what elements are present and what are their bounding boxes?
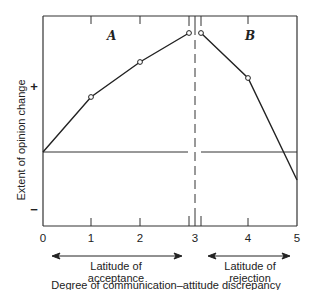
x-tick-5: 5 [294,232,300,244]
minus-marker: − [30,202,38,217]
region-a-label: A [106,29,116,43]
x-tick-0: 0 [40,232,46,244]
marker-a-2 [138,60,143,65]
opinion-change-chart: A B + − Extent of opinion change 0 1 2 3… [0,0,315,290]
acceptance-label-line1: Latitude of [90,260,142,272]
x-tick-1: 1 [88,232,94,244]
marker-b-2 [246,76,251,81]
x-tick-4: 4 [245,232,252,244]
marker-a-3 [187,31,192,36]
rejection-label-line1: Latitude of [224,260,276,272]
y-axis-label: Extent of opinion change [15,79,27,200]
x-tick-2: 2 [137,232,143,244]
series-b-line [201,33,297,180]
marker-b-1 [199,31,204,36]
x-axis-label: Degree of communication–attitude discrep… [51,279,281,290]
region-b-label: B [244,29,255,43]
acceptance-arrow [52,253,182,259]
rejection-arrow [208,253,290,259]
plus-marker: + [30,79,38,94]
x-tick-3: 3 [192,232,198,244]
top-ticks [91,16,248,26]
series-a-line [43,33,189,152]
bottom-ticks [91,216,248,226]
marker-a-1 [89,95,94,100]
